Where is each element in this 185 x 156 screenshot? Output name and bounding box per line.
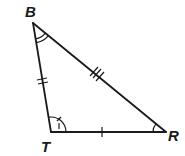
triangle-diagram: B T R <box>0 0 185 156</box>
vertex-label-r: R <box>168 127 179 144</box>
vertex-label-t: T <box>41 138 52 155</box>
vertex-label-b: B <box>25 3 36 20</box>
angle-arc-r <box>153 124 156 132</box>
